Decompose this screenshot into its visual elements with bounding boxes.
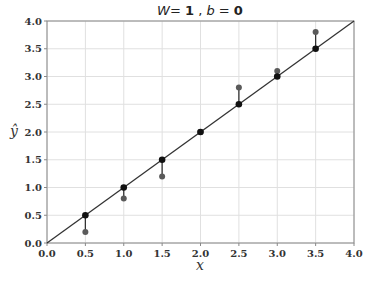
- x-tick-label: 3.0: [269, 248, 286, 259]
- actual-point: [121, 196, 127, 202]
- x-tick-label: 0.0: [38, 248, 55, 259]
- actual-point: [159, 173, 165, 179]
- x-tick-label: 1.0: [115, 248, 132, 259]
- predicted-point: [197, 129, 204, 136]
- x-tick-label: 0.5: [77, 248, 94, 259]
- predicted-point: [312, 45, 319, 52]
- actual-point: [274, 68, 280, 74]
- chart: W= 1 , b = 0 0.00.51.01.52.02.53.03.54.0…: [0, 0, 370, 283]
- predicted-point: [82, 212, 89, 219]
- x-tick-label: 3.5: [307, 248, 324, 259]
- y-tick-label: 0.5: [25, 210, 42, 221]
- x-axis-label: x: [196, 257, 204, 273]
- actual-point: [82, 229, 88, 235]
- y-tick-label: 1.0: [25, 182, 42, 193]
- chart-title: W= 1 , b = 0: [157, 3, 243, 18]
- y-tick-label: 1.5: [25, 154, 42, 165]
- x-tick-label: 1.5: [153, 248, 170, 259]
- actual-point: [236, 85, 242, 91]
- predicted-point: [159, 156, 166, 163]
- y-tick-label: 2.0: [25, 127, 42, 138]
- actual-point: [313, 29, 319, 35]
- predicted-point: [236, 101, 243, 108]
- y-tick-label: 2.5: [25, 99, 42, 110]
- y-tick-label: 0.0: [25, 238, 42, 249]
- y-axis-label: ŷ: [9, 123, 19, 139]
- predicted-point: [120, 184, 127, 191]
- y-tick-label: 4.0: [25, 16, 42, 27]
- y-tick-label: 3.0: [25, 71, 42, 82]
- y-tick-label: 3.5: [25, 43, 42, 54]
- x-tick-label: 4.0: [345, 248, 362, 259]
- predicted-point: [274, 73, 281, 80]
- y-axis-ticks: 0.00.51.01.52.02.53.03.54.0: [25, 16, 47, 249]
- x-tick-label: 2.5: [230, 248, 247, 259]
